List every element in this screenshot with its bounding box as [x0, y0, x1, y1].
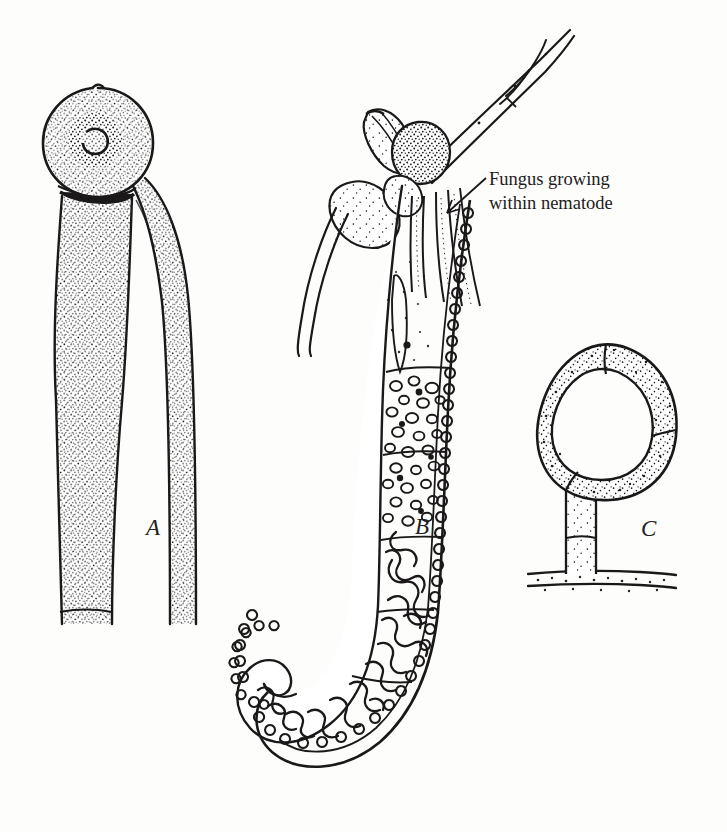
- annotation-line-2: within nematode: [489, 191, 613, 215]
- panel-label-c: C: [641, 516, 657, 542]
- panel-label-b: B: [415, 514, 430, 540]
- panel-label-a: A: [146, 515, 161, 541]
- annotation-line-1: Fungus growing: [489, 167, 613, 191]
- annotation-fungus-growing: Fungus growing within nematode: [489, 167, 613, 215]
- figure-canvas: [0, 0, 727, 832]
